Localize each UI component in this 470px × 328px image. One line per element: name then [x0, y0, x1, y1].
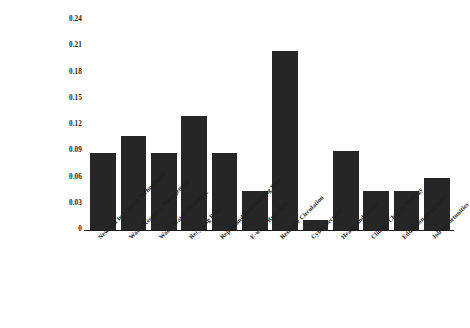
- bar: [303, 220, 329, 231]
- plot-area: [88, 20, 452, 230]
- x-axis-baseline: [84, 230, 454, 231]
- y-axis: 0.240.210.180.150.120.090.060.030: [36, 0, 82, 328]
- bar: [151, 153, 177, 230]
- y-axis-tick-label: 0.03: [42, 200, 82, 207]
- y-axis-tick-label: 0.24: [42, 16, 82, 23]
- bar: [212, 153, 238, 230]
- y-axis-tick-label: 0.18: [42, 69, 82, 76]
- bar: [181, 116, 207, 230]
- y-axis-tick-label: 0.12: [42, 121, 82, 128]
- bar: [242, 191, 268, 230]
- y-axis-tick-label: 0.09: [42, 148, 82, 155]
- bar: [394, 191, 420, 230]
- bar: [424, 178, 450, 231]
- bar: [363, 191, 389, 230]
- y-axis-tick-label: 0.15: [42, 95, 82, 102]
- bar: [121, 136, 147, 230]
- bar: [333, 151, 359, 230]
- bar: [272, 51, 298, 230]
- y-axis-tick-label: 0: [42, 226, 82, 233]
- y-axis-tick-label: 0.21: [42, 43, 82, 50]
- bar: [90, 153, 116, 230]
- y-axis-tick-label: 0.06: [42, 174, 82, 181]
